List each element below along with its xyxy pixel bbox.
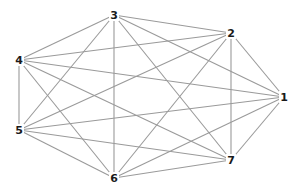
edge-1-2: [231, 33, 284, 97]
edge-6-7: [114, 160, 231, 178]
edge-2-5: [19, 33, 231, 130]
edge-4-6: [19, 60, 114, 178]
node-7-label: 7: [227, 154, 235, 167]
node-layer: 1234567: [14, 9, 289, 185]
edge-3-5: [19, 15, 114, 130]
edge-1-6: [114, 97, 284, 178]
edge-1-7: [231, 97, 284, 160]
node-1-label: 1: [280, 91, 288, 104]
edge-layer: [19, 15, 284, 178]
node-4-label: 4: [15, 54, 23, 67]
edge-3-4: [19, 15, 114, 60]
graph-canvas: 1234567: [0, 0, 301, 192]
node-5-label: 5: [15, 124, 23, 137]
node-2-label: 2: [227, 27, 235, 40]
node-3-label: 3: [110, 9, 118, 22]
node-6-label: 6: [110, 172, 118, 185]
edge-1-5: [19, 97, 284, 130]
